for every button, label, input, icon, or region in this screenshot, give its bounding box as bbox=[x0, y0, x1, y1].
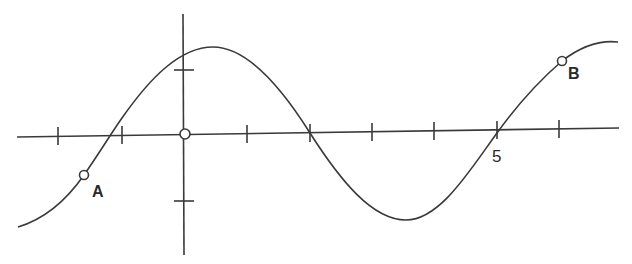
origin-point bbox=[180, 129, 190, 139]
sine-curve bbox=[18, 42, 618, 227]
point-b-label: B bbox=[568, 65, 580, 83]
point-a-marker bbox=[80, 171, 89, 180]
sine-wave-diagram bbox=[0, 0, 632, 264]
point-b-marker bbox=[558, 57, 567, 66]
point-a-label: A bbox=[92, 183, 104, 201]
x-tick-label-5: 5 bbox=[492, 147, 501, 167]
x-axis bbox=[17, 128, 619, 137]
